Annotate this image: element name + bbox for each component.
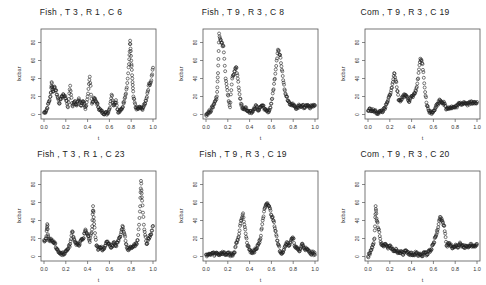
scatter-plot: 0.00.20.40.60.81.0020406080tIxcbar (162, 0, 324, 142)
svg-text:t: t (422, 135, 424, 141)
svg-text:0: 0 (354, 113, 360, 116)
svg-text:40: 40 (192, 218, 198, 224)
svg-text:80: 80 (192, 40, 198, 46)
svg-text:40: 40 (354, 76, 360, 82)
svg-text:0.8: 0.8 (451, 266, 459, 272)
svg-text:80: 80 (354, 40, 360, 46)
svg-text:0.8: 0.8 (127, 266, 135, 272)
svg-text:1.0: 1.0 (311, 124, 319, 130)
svg-text:0.4: 0.4 (246, 124, 254, 130)
svg-text:Ixcbar: Ixcbar (340, 208, 346, 223)
svg-text:0.8: 0.8 (289, 124, 297, 130)
svg-text:t: t (260, 277, 262, 283)
svg-text:60: 60 (354, 58, 360, 64)
panel-6: Com , T 9 , R 3 , C 20 0.00.20.40.60.81.… (324, 142, 486, 284)
scatter-plot: 0.00.20.40.60.81.0020406080tIxcbar (324, 142, 486, 284)
svg-text:40: 40 (30, 218, 36, 224)
scatter-plot: 0.00.20.40.60.81.0020406080tIxcbar (324, 0, 486, 142)
svg-text:0.2: 0.2 (386, 266, 394, 272)
svg-text:0: 0 (30, 113, 36, 116)
svg-text:0.4: 0.4 (84, 266, 92, 272)
svg-text:0.8: 0.8 (127, 124, 135, 130)
svg-text:20: 20 (354, 94, 360, 100)
svg-text:80: 80 (30, 182, 36, 188)
panel-3: Com , T 9 , R 3 , C 19 0.00.20.40.60.81.… (324, 0, 486, 142)
svg-text:Ixcbar: Ixcbar (340, 66, 346, 81)
svg-text:0.6: 0.6 (268, 124, 276, 130)
svg-text:0.2: 0.2 (62, 124, 70, 130)
svg-text:0.6: 0.6 (268, 266, 276, 272)
svg-text:0: 0 (354, 255, 360, 258)
svg-text:1.0: 1.0 (311, 266, 319, 272)
svg-text:20: 20 (354, 236, 360, 242)
svg-text:80: 80 (30, 40, 36, 46)
svg-text:40: 40 (354, 218, 360, 224)
svg-text:t: t (260, 135, 262, 141)
svg-text:0.2: 0.2 (62, 266, 70, 272)
svg-text:0.6: 0.6 (430, 266, 438, 272)
svg-text:40: 40 (192, 76, 198, 82)
svg-text:20: 20 (30, 94, 36, 100)
svg-text:0.0: 0.0 (202, 266, 210, 272)
svg-text:40: 40 (30, 76, 36, 82)
svg-text:1.0: 1.0 (473, 266, 481, 272)
svg-text:60: 60 (30, 200, 36, 206)
svg-text:0.0: 0.0 (364, 124, 372, 130)
svg-text:0.4: 0.4 (246, 266, 254, 272)
scatter-plot: 0.00.20.40.60.81.0020406080tIxcbar (0, 142, 162, 284)
svg-text:80: 80 (354, 182, 360, 188)
svg-text:0.4: 0.4 (408, 266, 416, 272)
svg-text:0.2: 0.2 (224, 266, 232, 272)
svg-text:0: 0 (30, 255, 36, 258)
svg-text:20: 20 (30, 236, 36, 242)
panel-1: Fish , T 3 , R 1 , C 6 0.00.20.40.60.81.… (0, 0, 162, 142)
svg-text:Ixcbar: Ixcbar (178, 208, 184, 223)
svg-text:0.0: 0.0 (364, 266, 372, 272)
svg-text:Ixcbar: Ixcbar (16, 66, 22, 81)
svg-text:0.0: 0.0 (202, 124, 210, 130)
svg-text:0.4: 0.4 (84, 124, 92, 130)
svg-text:0.0: 0.0 (40, 124, 48, 130)
svg-text:80: 80 (192, 182, 198, 188)
svg-text:0: 0 (192, 255, 198, 258)
svg-text:60: 60 (30, 58, 36, 64)
svg-text:0.2: 0.2 (224, 124, 232, 130)
panel-4: Fish , T 3 , R 1 , C 23 0.00.20.40.60.81… (0, 142, 162, 284)
scatter-plot: 0.00.20.40.60.81.0020406080tIxcbar (162, 142, 324, 284)
panel-5: Fish , T 9 , R 3 , C 19 0.00.20.40.60.81… (162, 142, 324, 284)
svg-text:t: t (98, 277, 100, 283)
svg-text:0.8: 0.8 (451, 124, 459, 130)
svg-text:1.0: 1.0 (473, 124, 481, 130)
svg-text:t: t (422, 277, 424, 283)
svg-text:t: t (98, 135, 100, 141)
svg-text:1.0: 1.0 (149, 266, 157, 272)
svg-text:20: 20 (192, 94, 198, 100)
svg-text:60: 60 (354, 200, 360, 206)
svg-text:60: 60 (192, 200, 198, 206)
scatter-plot: 0.00.20.40.60.81.0020406080tIxcbar (0, 0, 162, 142)
svg-text:0.6: 0.6 (430, 124, 438, 130)
svg-text:0.2: 0.2 (386, 124, 394, 130)
svg-text:0.6: 0.6 (106, 266, 114, 272)
svg-text:Ixcbar: Ixcbar (178, 66, 184, 81)
svg-text:20: 20 (192, 236, 198, 242)
svg-text:0.0: 0.0 (40, 266, 48, 272)
svg-text:0.6: 0.6 (106, 124, 114, 130)
svg-text:Ixcbar: Ixcbar (16, 208, 22, 223)
svg-text:0: 0 (192, 113, 198, 116)
svg-text:0.8: 0.8 (289, 266, 297, 272)
svg-text:60: 60 (192, 58, 198, 64)
svg-text:1.0: 1.0 (149, 124, 157, 130)
panel-2: Fish , T 9 , R 3 , C 8 0.00.20.40.60.81.… (162, 0, 324, 142)
chart-grid: Fish , T 3 , R 1 , C 6 0.00.20.40.60.81.… (0, 0, 486, 285)
svg-text:0.4: 0.4 (408, 124, 416, 130)
